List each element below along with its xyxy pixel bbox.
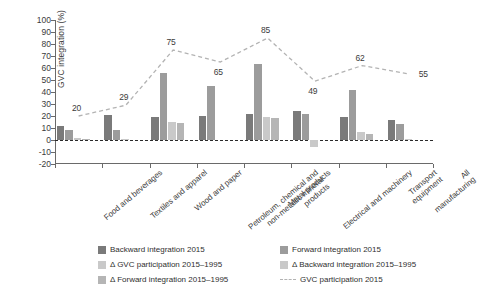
y-tick-label: 30 bbox=[25, 99, 51, 109]
legend-item: Δ GVC participation 2015–1995 bbox=[98, 260, 222, 269]
y-tick-label: 90 bbox=[25, 27, 51, 37]
y-tick-label: 40 bbox=[25, 87, 51, 97]
legend-line-swatch bbox=[280, 279, 296, 280]
gvc-participation-line bbox=[55, 20, 433, 164]
y-axis-label: GVC integration (%) bbox=[56, 1, 66, 97]
legend-item: Forward integration 2015 bbox=[280, 245, 381, 254]
y-tick-label: 60 bbox=[25, 63, 51, 73]
legend-label: Δ Forward integration 2015–1995 bbox=[110, 275, 228, 284]
line-point-label: 49 bbox=[308, 86, 317, 96]
legend-label: Δ GVC participation 2015–1995 bbox=[110, 260, 222, 269]
y-tick-label: 0 bbox=[25, 135, 51, 145]
legend-item: Δ Backward integration 2015–1995 bbox=[280, 260, 416, 269]
legend-label: Backward integration 2015 bbox=[110, 245, 205, 254]
chart-legend: Backward integration 2015Δ GVC participa… bbox=[98, 245, 428, 291]
x-axis-category-labels: Food and beveragesTextiles and apparelWo… bbox=[55, 166, 433, 228]
legend-color-swatch bbox=[98, 261, 106, 269]
legend-item: GVC participation 2015 bbox=[280, 275, 383, 284]
line-point-label: 29 bbox=[119, 92, 128, 102]
line-point-label: 65 bbox=[214, 67, 223, 77]
y-tick-label: 80 bbox=[25, 39, 51, 49]
y-tick-label: 10 bbox=[25, 123, 51, 133]
line-point-label: 62 bbox=[355, 53, 364, 63]
cut-off-title bbox=[10, 0, 430, 2]
legend-label: Δ Backward integration 2015–1995 bbox=[292, 260, 416, 269]
y-tick-label: 20 bbox=[25, 111, 51, 121]
plot-area: 1009080706050403020100-10-20 20297565854… bbox=[55, 20, 433, 164]
line-point-label: 20 bbox=[72, 103, 81, 113]
y-tick-label: -20 bbox=[25, 159, 51, 169]
legend-color-swatch bbox=[98, 246, 106, 254]
line-point-label: 75 bbox=[166, 37, 175, 47]
legend-color-swatch bbox=[98, 276, 106, 284]
legend-color-swatch bbox=[280, 246, 288, 254]
y-tick-label: 50 bbox=[25, 75, 51, 85]
legend-item: Δ Forward integration 2015–1995 bbox=[98, 275, 228, 284]
legend-color-swatch bbox=[280, 261, 288, 269]
line-point-label: 85 bbox=[261, 25, 270, 35]
line-point-label: 55 bbox=[419, 69, 428, 79]
legend-label: GVC participation 2015 bbox=[300, 275, 383, 284]
legend-label: Forward integration 2015 bbox=[292, 245, 381, 254]
y-tick-label: -10 bbox=[25, 147, 51, 157]
y-tick-label: 100 bbox=[25, 15, 51, 25]
legend-item: Backward integration 2015 bbox=[98, 245, 205, 254]
y-tick-label: 70 bbox=[25, 51, 51, 61]
